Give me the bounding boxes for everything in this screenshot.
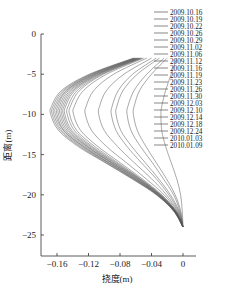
x-tick-label: −0.04 [141,259,162,269]
y-axis-title: 距离(m) [2,130,13,161]
series-lines [50,58,183,227]
x-tick-label: −0.16 [47,259,68,269]
x-axis-ticks: −0.16−0.12−0.08−0.040 [47,253,186,269]
y-tick-label: 0 [32,29,37,39]
y-tick-label: −25 [22,230,37,240]
x-tick-label: −0.08 [110,259,131,269]
y-tick-label: −10 [22,109,37,119]
y-tick-label: −15 [22,150,37,160]
legend-label: 2010.01.09 [170,142,203,150]
series-line-2010-01-09 [50,58,183,227]
deflection-chart: 0−5−10−15−20−25 −0.16−0.12−0.08−0.040 挠度… [0,0,234,292]
x-tick-label: 0 [181,259,186,269]
x-tick-label: −0.12 [78,259,99,269]
y-tick-label: −20 [22,190,37,200]
y-tick-label: −5 [26,69,36,79]
x-axis-title: 挠度(m) [102,273,133,284]
